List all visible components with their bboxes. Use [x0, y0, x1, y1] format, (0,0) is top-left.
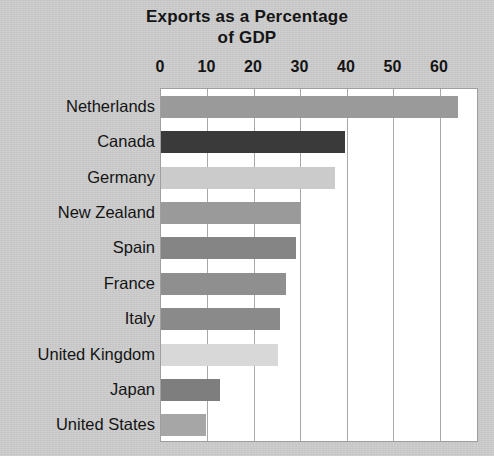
bar-germany	[161, 167, 335, 189]
category-label-spain: Spain	[0, 236, 155, 258]
category-axis-labels: NetherlandsCanadaGermanyNew ZealandSpain…	[0, 88, 155, 442]
bar-new-zealand	[161, 202, 301, 224]
x-tick-label-50: 50	[384, 58, 402, 76]
exports-gdp-bar-chart: Exports as a Percentage of GDP 010203040…	[0, 0, 494, 456]
category-label-france: France	[0, 272, 155, 294]
x-tick-label-0: 0	[156, 58, 165, 76]
chart-title-line-2: of GDP	[0, 27, 494, 48]
x-tick-label-20: 20	[244, 58, 262, 76]
plot-area	[160, 88, 478, 442]
category-label-germany: Germany	[0, 166, 155, 188]
category-label-italy: Italy	[0, 307, 155, 329]
bar-japan	[161, 379, 220, 401]
bar-united-kingdom	[161, 344, 278, 366]
chart-title: Exports as a Percentage of GDP	[0, 6, 494, 48]
x-tick-label-60: 60	[430, 58, 448, 76]
category-label-netherlands: Netherlands	[0, 95, 155, 117]
x-tick-label-30: 30	[291, 58, 309, 76]
x-tick-label-10: 10	[198, 58, 216, 76]
bar-canada	[161, 131, 345, 153]
bar-series	[161, 89, 477, 441]
bar-netherlands	[161, 96, 458, 118]
category-label-united-states: United States	[0, 413, 155, 435]
chart-title-line-1: Exports as a Percentage	[0, 6, 494, 27]
bar-spain	[161, 237, 296, 259]
bar-united-states	[161, 414, 206, 436]
x-tick-label-40: 40	[337, 58, 355, 76]
category-label-canada: Canada	[0, 130, 155, 152]
category-label-new-zealand: New Zealand	[0, 201, 155, 223]
category-label-united-kingdom: United Kingdom	[0, 343, 155, 365]
bar-france	[161, 273, 286, 295]
bar-italy	[161, 308, 280, 330]
category-label-japan: Japan	[0, 378, 155, 400]
